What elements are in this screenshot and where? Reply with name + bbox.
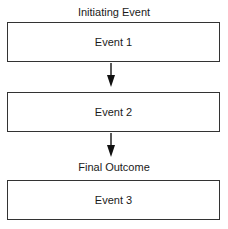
arrow-event2-to-event3 [104,133,118,158]
event-2-label: Event 2 [95,106,132,118]
event-2-box: Event 2 [7,92,220,132]
event-1-box: Event 1 [7,22,220,62]
arrow-head [107,145,115,157]
event-1-label: Event 1 [95,36,132,48]
final-outcome-label: Final Outcome [0,160,228,174]
event-3-box: Event 3 [7,180,220,220]
arrow-event1-to-event2 [104,63,118,88]
event-3-label: Event 3 [95,194,132,206]
initiating-event-label: Initiating Event [0,5,228,19]
arrow-head [107,75,115,87]
